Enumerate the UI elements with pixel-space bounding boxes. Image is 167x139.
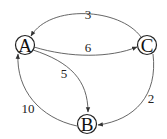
edge-c-to-a-weight: 3 <box>85 7 92 22</box>
node-b-label: B <box>81 114 94 135</box>
edge-c-to-a: 3 <box>31 7 141 38</box>
edge-a-to-b: 5 <box>33 50 88 112</box>
edge-c-to-b-weight: 2 <box>148 91 155 106</box>
graph-diagram: 3 6 5 10 2 A B C <box>0 0 167 139</box>
edge-a-to-c-weight: 6 <box>85 40 92 55</box>
edge-c-to-b-path <box>98 54 154 125</box>
edge-a-to-b-path <box>33 50 88 112</box>
edge-b-to-a: 10 <box>18 54 77 126</box>
edge-b-to-a-weight: 10 <box>22 101 35 116</box>
node-c: C <box>138 35 157 56</box>
node-a: A <box>16 35 35 56</box>
edge-a-to-c: 6 <box>34 40 137 56</box>
node-a-label: A <box>18 35 32 56</box>
node-c-label: C <box>141 35 154 56</box>
edge-a-to-b-weight: 5 <box>61 66 68 81</box>
node-b: B <box>78 114 97 135</box>
edge-c-to-b: 2 <box>98 54 154 125</box>
